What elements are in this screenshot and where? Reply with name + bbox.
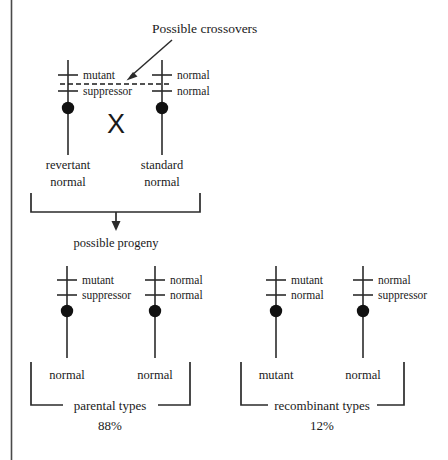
parent-right-allele-bottom: normal <box>177 85 210 97</box>
possible-progeny-label: possible progeny <box>73 236 159 250</box>
parental-types-label: parental types <box>74 398 147 413</box>
progeny-allele-bottom: suppressor <box>378 289 427 302</box>
progeny-allele-bottom: normal <box>170 289 203 301</box>
progeny-phenotype: mutant <box>259 368 294 382</box>
progeny-phenotype: normal <box>49 368 85 382</box>
parent-right-allele-top: normal <box>177 69 210 81</box>
centromere-dot <box>62 102 74 114</box>
parent-left-allele-top: mutant <box>83 69 116 81</box>
progeny-allele-top: mutant <box>291 274 324 286</box>
centromere-dot <box>149 305 161 317</box>
progeny-allele-top: normal <box>170 274 203 286</box>
progeny-chromosome-recombinant-2: normal suppressor normal <box>345 266 427 382</box>
progeny-allele-bottom: suppressor <box>82 289 131 302</box>
progeny-phenotype: normal <box>137 368 173 382</box>
parent-left-phenotype-line2: normal <box>50 175 86 189</box>
progeny-chromosome-parental-2: normal normal normal <box>137 266 202 382</box>
progeny-chromosome-parental-1: mutant suppressor normal <box>49 266 131 382</box>
parental-types-percent: 88% <box>98 418 122 433</box>
crossover-diagram: Possible crossovers mutant suppressor re… <box>0 0 448 460</box>
progeny-allele-top: mutant <box>82 274 115 286</box>
recombinant-types-label: recombinant types <box>274 398 370 413</box>
centromere-dot <box>270 305 282 317</box>
parental-cross-bracket <box>31 193 200 231</box>
parent-left-phenotype-line1: revertant <box>46 158 91 172</box>
cross-symbol: X <box>107 109 125 139</box>
centromere-dot <box>357 305 369 317</box>
crossover-annotation-label: Possible crossovers <box>152 21 257 36</box>
recombinant-types-percent: 12% <box>310 418 334 433</box>
parent-left-allele-bottom: suppressor <box>83 85 132 98</box>
parent-chromosome-right: normal normal standard normal <box>141 60 210 189</box>
parent-right-phenotype-line1: standard <box>141 158 184 172</box>
progeny-chromosome-recombinant-1: mutant normal mutant <box>259 266 324 382</box>
progeny-phenotype: normal <box>345 368 381 382</box>
parent-right-phenotype-line2: normal <box>144 175 180 189</box>
progeny-allele-bottom: normal <box>291 289 324 301</box>
centromere-dot <box>156 102 168 114</box>
progeny-allele-top: normal <box>378 274 411 286</box>
centromere-dot <box>61 305 73 317</box>
